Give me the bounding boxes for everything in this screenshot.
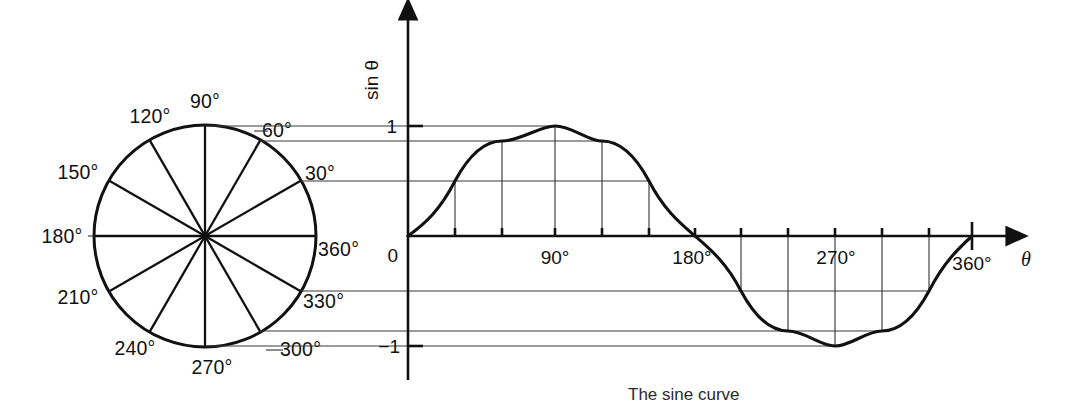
- unit-circle-group: 90° 120° 150° 180° 210° 240° 270° 300° 3…: [41, 90, 359, 378]
- figure-caption: The sine curve: [628, 385, 740, 404]
- x-tick-label-180: 180°: [672, 247, 711, 268]
- sine-curve-figure: 90° 120° 150° 180° 210° 240° 270° 300° 3…: [0, 0, 1069, 416]
- origin-label: 0: [387, 245, 398, 266]
- circle-label-360: 360°: [318, 238, 359, 260]
- circle-label-180: 180°: [41, 225, 82, 247]
- circle-label-270: 270°: [191, 356, 232, 378]
- circle-label-150: 150°: [57, 161, 98, 183]
- circle-label-210: 210°: [57, 286, 98, 308]
- x-tick-label-90: 90°: [541, 247, 570, 268]
- y-tick-label-neg1: −1: [378, 336, 400, 357]
- axes: [408, 18, 1008, 380]
- y-axis-title: sin θ: [361, 60, 382, 100]
- figure-svg: 90° 120° 150° 180° 210° 240° 270° 300° 3…: [0, 0, 1069, 416]
- axis-labels: 1 −1 0 90° 180° 270° 360° sin θ θ: [361, 60, 1031, 357]
- label-connector-stubs: [88, 131, 283, 350]
- circle-label-60: 60°: [262, 119, 292, 141]
- x-axis-title: θ: [1021, 248, 1031, 270]
- circle-label-240: 240°: [114, 337, 155, 359]
- circle-label-300: 300°: [280, 338, 321, 360]
- x-tick-label-360: 360°: [952, 253, 991, 274]
- circle-label-90: 90°: [190, 90, 220, 112]
- circle-label-120: 120°: [129, 105, 170, 127]
- y-tick-label-1: 1: [386, 116, 397, 137]
- x-tick-label-270: 270°: [816, 247, 855, 268]
- circle-label-330: 330°: [303, 290, 344, 312]
